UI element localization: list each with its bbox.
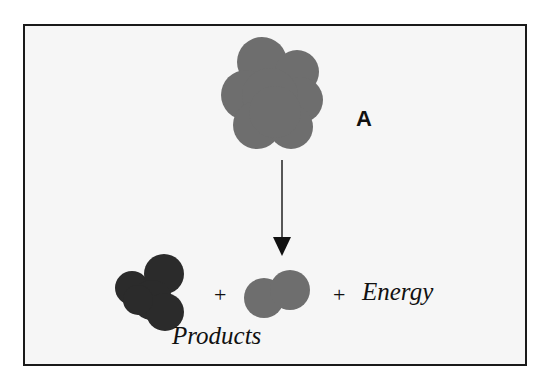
plus-sign: + [333,282,345,308]
products-label: Products [172,322,261,350]
reaction-diagram [0,0,540,370]
reactant-label: A [356,106,372,132]
reactant-cluster-a [221,37,323,149]
product-1-cluster [115,254,184,331]
energy-label: Energy [362,278,433,306]
plus-sign: + [214,282,226,308]
product-2-cluster [244,270,310,318]
reaction-arrow [273,160,291,256]
